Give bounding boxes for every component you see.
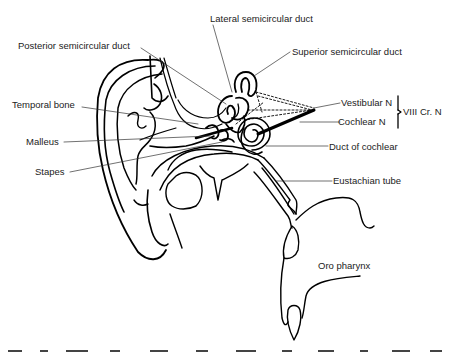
lobule xyxy=(147,190,168,246)
label-posterior-semicircular-duct: Posterior semicircular duct xyxy=(18,40,130,51)
mastoid-chamber-2 xyxy=(200,164,248,200)
canal-upper-inner xyxy=(160,58,222,129)
eustachian-tube-inner-left xyxy=(254,172,292,228)
superior-canal xyxy=(235,72,257,96)
nasopharynx-roof xyxy=(296,198,374,228)
adenoid xyxy=(283,226,298,259)
label-temporal-bone: Temporal bone xyxy=(12,99,75,110)
mastoid-chamber xyxy=(166,173,202,209)
oropharynx-front xyxy=(302,276,360,318)
viii-bracket xyxy=(398,96,401,128)
concha xyxy=(136,112,155,184)
uvula xyxy=(287,306,300,341)
cropped-caption-fragment xyxy=(0,348,452,352)
lobule-notch xyxy=(170,214,182,248)
label-malleus: Malleus xyxy=(26,136,59,147)
label-oro-pharynx: Oro pharynx xyxy=(318,260,370,271)
label-lateral-semicircular-duct: Lateral semicircular duct xyxy=(210,13,313,24)
label-eustachian-tube: Eustachian tube xyxy=(333,175,401,186)
label-cochlear-n: Cochlear N xyxy=(338,116,386,127)
ear-anatomy-diagram: Lateral semicircular duct Posterior semi… xyxy=(0,0,452,352)
label-stapes: Stapes xyxy=(35,166,65,177)
antihelix xyxy=(144,84,162,110)
label-superior-semicircular-duct: Superior semicircular duct xyxy=(292,46,402,57)
label-duct-of-cochlear: Duct of cochlear xyxy=(329,141,398,152)
helix-innermost xyxy=(117,74,162,190)
label-vestibular-n: Vestibular N xyxy=(341,97,392,108)
label-viii-cr-n: VIII Cr. N xyxy=(403,106,442,117)
middle-ear-arc xyxy=(160,153,258,190)
intertragic xyxy=(134,200,148,205)
